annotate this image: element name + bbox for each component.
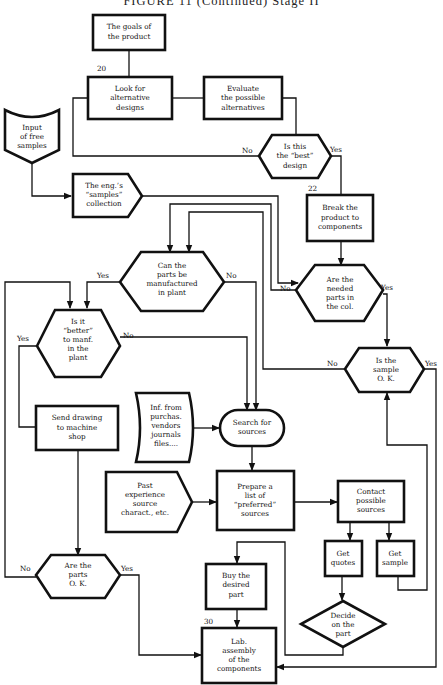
- edge-parts-yes: [119, 575, 201, 655]
- node-text: samples: [17, 141, 47, 150]
- edge-label-yes: Yes: [96, 271, 109, 280]
- node-text: sample: [382, 558, 408, 567]
- node-text: to manf.: [63, 335, 93, 344]
- node-text: Get: [337, 549, 350, 558]
- edge-label-no: No: [123, 331, 134, 340]
- node-text: plant: [69, 353, 88, 362]
- node-text: the col.: [327, 302, 354, 311]
- node-text: designs: [116, 103, 144, 112]
- step-number-22: 22: [308, 184, 317, 193]
- svg-text:The goals of: The goals of: [107, 22, 153, 31]
- node-text: Evaluate: [227, 84, 259, 93]
- node-input-samples[interactable]: Input of free samples: [5, 110, 59, 163]
- flowchart-canvas: The goals of the product 20 Look for alt…: [0, 0, 443, 685]
- node-text: possible: [356, 496, 386, 505]
- node-get-quotes[interactable]: Get quotes: [325, 541, 362, 576]
- node-parts-ok-decision[interactable]: Are the parts O. K.: [36, 555, 120, 598]
- node-text: purchas.: [150, 412, 182, 421]
- node-text: part: [228, 590, 243, 599]
- node-text: experience: [125, 490, 165, 499]
- node-text: Prepare a: [237, 482, 273, 491]
- node-best-design-decision[interactable]: Is this the “best” design: [259, 135, 331, 178]
- node-text: manufactured: [146, 279, 198, 288]
- node-goals[interactable]: The goals of the product: [93, 15, 165, 50]
- edge-manuf-yes: [87, 282, 120, 308]
- node-text: of free: [20, 132, 44, 141]
- node-text: Search for: [233, 418, 272, 427]
- node-contact-sources[interactable]: Contact possible sources: [338, 481, 404, 522]
- edge-best-yes: [331, 156, 341, 195]
- node-text: Is this: [284, 142, 307, 151]
- node-text: part: [335, 629, 350, 638]
- node-text: Decide: [330, 611, 355, 620]
- node-text: components: [318, 222, 362, 231]
- node-text: parts be: [157, 270, 187, 279]
- node-text: charact., etc.: [121, 508, 169, 517]
- node-text: to machine: [57, 423, 97, 432]
- node-text: on the: [331, 620, 354, 629]
- node-get-sample[interactable]: Get sample: [377, 541, 414, 576]
- node-text: of the: [228, 655, 249, 664]
- node-text: in plant: [158, 288, 186, 297]
- edge-input-collection: [32, 163, 71, 196]
- node-sample-ok-decision[interactable]: Is the sample O. K.: [345, 348, 424, 392]
- node-needed-parts-decision[interactable]: Are the needed parts in the col.: [296, 265, 383, 321]
- node-search-sources[interactable]: Search for sources: [220, 410, 284, 446]
- node-text: files....: [154, 439, 178, 448]
- node-lab-assembly[interactable]: Lab. assembly of the components: [202, 628, 276, 683]
- node-text: vendors: [151, 421, 181, 430]
- node-better-manufacture-decision[interactable]: Is it “better” to manf. in the plant: [37, 310, 120, 377]
- node-text: “better”: [63, 326, 93, 335]
- node-text: alternatives: [221, 103, 265, 112]
- node-text: O. K.: [377, 374, 395, 383]
- node-text: Get: [389, 549, 402, 558]
- edge-label-yes: Yes: [120, 564, 133, 573]
- node-text: sources: [238, 427, 266, 436]
- node-text: Contact: [357, 487, 386, 496]
- node-text: Look for: [115, 84, 146, 93]
- node-samples-collection[interactable]: The eng.’s “samples” collection: [73, 174, 142, 217]
- node-text: Input: [22, 123, 42, 132]
- node-text: the possible: [221, 93, 265, 102]
- edge-label-no: No: [20, 564, 31, 573]
- node-text: The goals of: [107, 22, 153, 31]
- node-text: Are the: [64, 561, 92, 570]
- node-text: design: [283, 161, 307, 170]
- edge-label-yes: Yes: [329, 145, 342, 154]
- node-text: sample: [373, 365, 399, 374]
- node-text: O. K.: [69, 579, 87, 588]
- node-text: assembly: [222, 646, 257, 655]
- node-can-manufacture-decision[interactable]: Can the parts be manufactured in plant: [120, 252, 224, 311]
- node-text: needed: [327, 284, 354, 293]
- node-information-sources[interactable]: Inf. from purchas. vendors journals file…: [136, 393, 193, 462]
- edge-evaluate-best: [282, 98, 296, 135]
- node-text: sources: [357, 505, 385, 514]
- node-text: list of: [245, 491, 267, 500]
- node-text: parts in: [326, 293, 354, 302]
- node-send-drawing[interactable]: Send drawing to machine shop: [36, 406, 118, 450]
- node-past-experience[interactable]: Past experience source charact., etc.: [106, 472, 192, 532]
- node-decide-part-decision[interactable]: Decide on the part: [301, 601, 385, 647]
- step-number-20: 20: [97, 64, 107, 73]
- edge-label-no: No: [242, 146, 253, 155]
- node-prepare-list[interactable]: Prepare a list of “preferred” sources: [217, 471, 294, 530]
- node-text: Is the: [376, 356, 397, 365]
- node-text: Lab.: [231, 637, 247, 646]
- node-text: Break the: [322, 203, 358, 212]
- node-text: shop: [68, 432, 86, 441]
- node-text: journals: [150, 430, 181, 439]
- edge-needed-yes: [383, 294, 387, 346]
- edge-better-yes: [19, 346, 37, 427]
- step-number-30: 30: [204, 617, 214, 626]
- node-text: product to: [321, 213, 359, 222]
- node-break-product[interactable]: Break the product to components: [307, 195, 373, 241]
- node-text: Is it: [71, 317, 85, 326]
- node-buy-part[interactable]: Buy the desired part: [206, 564, 266, 609]
- node-text: in the: [68, 344, 89, 353]
- node-evaluate-alternatives[interactable]: Evaluate the possible alternatives: [204, 77, 282, 119]
- node-text: “preferred”: [234, 500, 277, 509]
- node-text: desired: [222, 580, 250, 589]
- node-look-alternatives[interactable]: Look for alternative designs: [88, 77, 172, 119]
- edge-label-no: No: [226, 271, 237, 280]
- node-text: The eng.’s: [85, 181, 123, 190]
